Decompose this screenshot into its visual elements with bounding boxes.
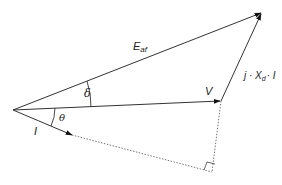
phasor-diagram: Eaf V I j · Xd· I δ θ (0, 0, 282, 185)
theta-angle-arc (51, 108, 55, 126)
v-label: V (205, 85, 214, 97)
jxdi-label: j · Xd· I (242, 70, 276, 82)
i-label: I (34, 125, 37, 137)
v-to-right-angle-dotted-line (212, 101, 221, 172)
v-phasor-arrow (13, 101, 220, 110)
jxdi-phasor-arrow (221, 14, 261, 101)
i-extension-dotted-line (72, 135, 212, 172)
delta-label: δ (84, 87, 91, 100)
right-angle-marker (204, 162, 215, 170)
e-af-label: Eaf (133, 40, 148, 54)
theta-label: θ (59, 112, 65, 123)
